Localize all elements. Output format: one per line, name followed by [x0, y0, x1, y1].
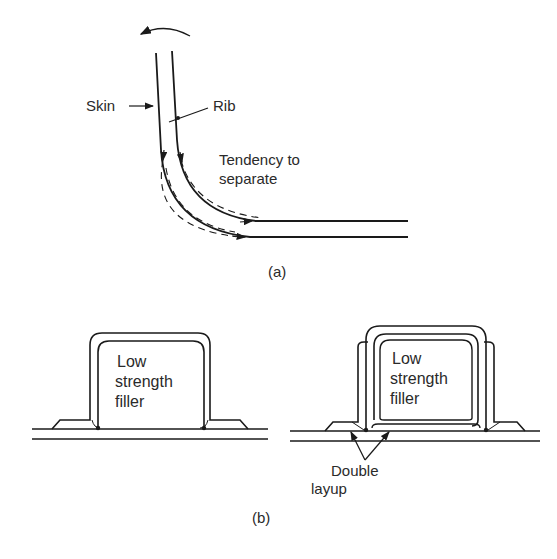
double-layup-label-line1: Double	[331, 462, 379, 480]
tendency-label-line2: separate	[219, 170, 277, 188]
part-b-sublabel: (b)	[252, 509, 270, 527]
rib-label: Rib	[213, 97, 236, 115]
part-a-drawing	[129, 28, 408, 237]
right-filler-label-line2: strength	[390, 369, 448, 389]
figure: Skin Rib Tendency to separate (a) Low st…	[0, 0, 557, 559]
left-filler-label-line2: strength	[115, 372, 173, 392]
skin-label: Skin	[86, 97, 115, 115]
tendency-label-line1: Tendency to	[219, 151, 300, 169]
right-filler-label-line1: Low	[392, 349, 421, 369]
rib-line	[172, 51, 408, 221]
rotation-arrow-icon	[141, 28, 190, 36]
left-filler-label-line1: Low	[117, 352, 146, 372]
double-layup-label-line2: layup	[311, 480, 347, 498]
left-filler-label-line3: filler	[115, 392, 144, 412]
part-a-sublabel: (a)	[268, 263, 286, 281]
right-filler-label-line3: filler	[390, 389, 419, 409]
figure-caption-clipped	[18, 546, 278, 559]
skin-line	[156, 53, 408, 237]
